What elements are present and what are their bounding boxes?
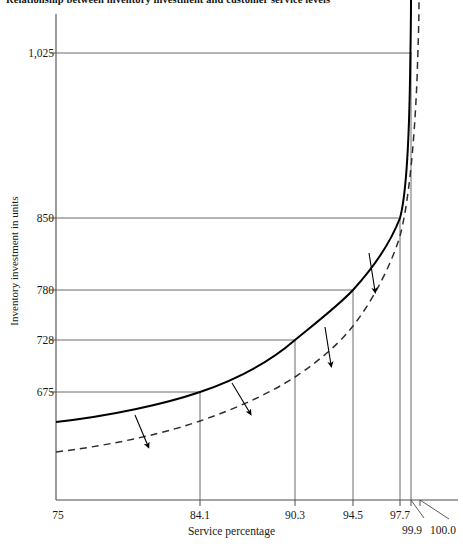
leader-line-100-0 bbox=[420, 500, 449, 519]
leader-line-99-9 bbox=[411, 500, 424, 518]
solid-curve-current-investment bbox=[56, 0, 411, 422]
plot-area bbox=[0, 0, 463, 544]
arrow-annotation-3 bbox=[325, 327, 331, 365]
arrow-annotation-4 bbox=[369, 253, 375, 291]
arrow-annotation-1 bbox=[135, 415, 148, 446]
chart-figure: Relationship between inventory investmen… bbox=[0, 0, 463, 544]
dashed-curve-reduced-investment bbox=[56, 0, 419, 452]
